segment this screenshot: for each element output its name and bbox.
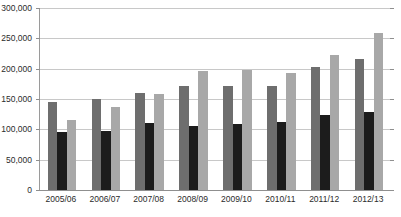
bar[interactable] bbox=[92, 99, 102, 190]
y-axis-tick-mark-right bbox=[390, 129, 394, 130]
y-axis-tick-label: 250,000 bbox=[1, 34, 32, 43]
bar[interactable] bbox=[364, 112, 374, 190]
bar[interactable] bbox=[154, 94, 164, 190]
bar-group bbox=[135, 8, 164, 190]
bar[interactable] bbox=[267, 86, 277, 190]
bar[interactable] bbox=[286, 73, 296, 190]
x-axis-tick-label: 2012/13 bbox=[353, 194, 384, 204]
bar[interactable] bbox=[223, 86, 233, 190]
y-axis-tick-label: 50,000 bbox=[6, 155, 32, 164]
bar-group bbox=[223, 8, 252, 190]
bar[interactable] bbox=[320, 115, 330, 190]
y-axis-tick-mark-right bbox=[390, 38, 394, 39]
bar[interactable] bbox=[101, 131, 111, 190]
bar[interactable] bbox=[355, 59, 365, 190]
bar-group bbox=[311, 8, 340, 190]
y-axis-tick-mark-right bbox=[390, 8, 394, 9]
x-axis-tick-label: 2007/08 bbox=[133, 194, 164, 204]
y-axis-tick-label: 150,000 bbox=[1, 95, 32, 104]
y-axis-tick-mark bbox=[36, 190, 40, 191]
bar[interactable] bbox=[48, 102, 58, 190]
y-axis-tick-mark-right bbox=[390, 160, 394, 161]
bars-layer bbox=[40, 8, 390, 190]
y-axis-tick-label: 100,000 bbox=[1, 125, 32, 134]
bar-group bbox=[267, 8, 296, 190]
bar[interactable] bbox=[374, 33, 384, 190]
y-axis-tick-label: 0 bbox=[27, 186, 32, 195]
x-axis: 2005/062006/072007/082008/092009/102010/… bbox=[39, 192, 390, 214]
x-axis-tick-label: 2009/10 bbox=[221, 194, 252, 204]
bar[interactable] bbox=[311, 67, 321, 190]
y-axis-tick-label: 200,000 bbox=[1, 64, 32, 73]
bar[interactable] bbox=[57, 132, 67, 190]
bar[interactable] bbox=[242, 70, 252, 190]
x-axis-tick-label: 2005/06 bbox=[46, 194, 77, 204]
y-axis-tick-mark-right bbox=[390, 99, 394, 100]
bar-group bbox=[179, 8, 208, 190]
y-axis-tick-mark-right bbox=[390, 190, 394, 191]
x-axis-tick-label: 2010/11 bbox=[265, 194, 295, 204]
bar[interactable] bbox=[67, 120, 77, 190]
bar[interactable] bbox=[277, 122, 287, 190]
x-axis-tick-label: 2011/12 bbox=[309, 194, 339, 204]
bar-group bbox=[48, 8, 77, 190]
x-axis-tick-label: 2008/09 bbox=[177, 194, 208, 204]
bar[interactable] bbox=[189, 126, 199, 190]
bar[interactable] bbox=[198, 71, 208, 190]
y-axis-tick-label: 300,000 bbox=[1, 4, 32, 13]
bar[interactable] bbox=[179, 86, 189, 190]
bar[interactable] bbox=[330, 55, 340, 190]
gridline bbox=[40, 190, 390, 191]
bar[interactable] bbox=[145, 123, 155, 190]
x-axis-tick-label: 2006/07 bbox=[89, 194, 120, 204]
y-axis-tick-mark-right bbox=[390, 69, 394, 70]
bar[interactable] bbox=[233, 124, 243, 190]
bar[interactable] bbox=[135, 93, 145, 190]
bar-chart: 050,000100,000150,000200,000250,000300,0… bbox=[0, 0, 401, 217]
y-axis: 050,000100,000150,000200,000250,000300,0… bbox=[0, 0, 37, 217]
chart-title bbox=[0, 0, 401, 2]
bar[interactable] bbox=[111, 107, 121, 190]
bar-group bbox=[355, 8, 384, 190]
plot-area bbox=[39, 8, 390, 190]
bar-group bbox=[92, 8, 121, 190]
